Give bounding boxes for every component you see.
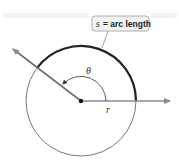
arc-length-diagram: θ r s = arc length bbox=[0, 0, 179, 162]
ghost-text bbox=[3, 13, 89, 18]
theta-label: θ bbox=[86, 65, 91, 76]
callout-variable: s bbox=[96, 19, 100, 29]
callout-text: = arc length bbox=[103, 19, 151, 29]
radius-label: r bbox=[106, 104, 110, 115]
ghost-text-right bbox=[151, 13, 177, 18]
center-point bbox=[79, 99, 83, 103]
callout-pointer bbox=[102, 31, 108, 48]
angle-theta-arc bbox=[63, 76, 106, 101]
